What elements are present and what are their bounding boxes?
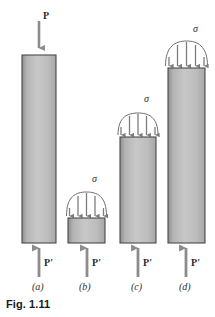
panel-b-stress-arrows [70,193,104,216]
panel-c-part-label: (c) [131,282,142,292]
panel-a-top-load-label: P [43,11,49,21]
figure-drawing-canvas [0,0,215,317]
panel-a-bottom-load-label: P' [44,258,53,268]
panel-a-bar [22,55,56,243]
panel-b-bottom-load-label: P' [92,258,101,268]
panel-c-bar [120,137,156,243]
panel-a-part-label: (a) [32,282,44,292]
panel-c-stress-label: σ [144,94,149,104]
panel-c-bottom-load-label: P' [143,258,152,268]
panel-c-stress-arrows [121,114,155,135]
panel-a [22,21,56,277]
panel-b-bar [68,218,105,243]
panel-d-bar [168,68,205,243]
panel-d [166,41,208,277]
panel-d-bottom-load-label: P' [191,258,200,268]
panel-d-stress-label: σ [193,24,198,34]
panel-c [118,113,158,277]
figure-caption: Fig. 1.11 [6,299,50,310]
panel-b-part-label: (b) [79,282,91,292]
panel-d-stress-arrows [169,42,204,66]
panel-d-part-label: (d) [179,282,191,292]
panel-b-stress-label: σ [92,174,97,184]
figure-1-11: P σ σ σ P' P' P' P' (a) (b) (c) (d) Fig.… [0,0,215,317]
